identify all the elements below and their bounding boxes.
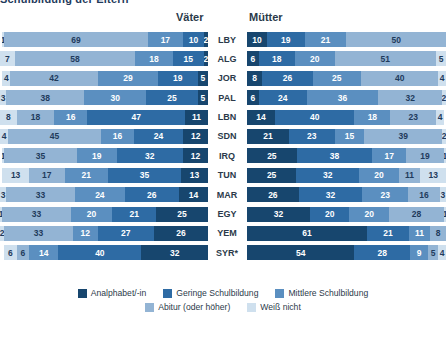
legend-swatch-icon [247, 303, 256, 312]
bar-mothers-sdn: 212315392 [247, 129, 446, 144]
bar-fathers-irq: 135193212 [0, 148, 208, 163]
chart-row: 135193212IRQ253817191 [0, 147, 446, 166]
legend-item: Geringe Schulbildung [163, 288, 258, 298]
legend-swatch-icon [275, 289, 284, 298]
bar-segment: 33 [6, 187, 75, 202]
bar-segment: 27 [98, 226, 154, 241]
bar-segment: 15 [173, 51, 204, 66]
chart-legend: Analphabet/-inGeringe SchulbildungMittle… [0, 288, 446, 316]
bar-segment: 69 [4, 32, 148, 47]
chart-row: 44229195JOR82625404 [0, 70, 446, 89]
country-label: SDN [208, 129, 246, 144]
bar-segment: 7 [0, 51, 15, 66]
bar-fathers-yem: 233122726 [0, 226, 208, 241]
country-label: ALG [208, 51, 246, 66]
country-label: MAR [208, 187, 246, 202]
bar-segment: 10 [247, 32, 267, 47]
legend-item: Abitur (oder höher) [145, 302, 230, 312]
bar-segment: 5 [436, 51, 446, 66]
bar-mothers-yem: 6121118 [247, 226, 446, 241]
bar-segment: 25 [247, 148, 297, 163]
bar-segment: 20 [71, 207, 113, 222]
bar-segment: 21 [112, 207, 156, 222]
bar-segment: 26 [154, 226, 208, 241]
bar-segment: 21 [247, 129, 289, 144]
bar-segment: 11 [399, 168, 421, 183]
bar-mothers-syr: 5428954 [247, 245, 446, 260]
bar-fathers-lbn: 818164711 [0, 110, 208, 125]
chart-row: 1317213513TUN2532201113 [0, 167, 446, 186]
bar-segment: 40 [275, 110, 355, 125]
country-label: EGY [208, 207, 246, 222]
bar-segment: 32 [117, 148, 184, 163]
bar-segment: 16 [54, 110, 87, 125]
bar-segment: 23 [390, 110, 436, 125]
chart-row: 445162412SDN212315392 [0, 128, 446, 147]
bar-segment: 16 [408, 187, 440, 202]
bar-segment: 14 [179, 187, 208, 202]
bar-segment: 4 [2, 71, 10, 86]
chart-rows: 16917102LBY1019215075818152ALG6182051544… [0, 31, 446, 264]
bar-segment: 20 [310, 207, 349, 222]
bar-mothers-alg: 61820515 [247, 51, 446, 66]
bar-segment: 6 [17, 245, 29, 260]
bar-mothers-lby: 10192150 [247, 32, 446, 47]
bar-segment: 25 [247, 168, 296, 183]
bar-segment: 5 [198, 71, 208, 86]
bar-segment: 2 [442, 129, 446, 144]
bar-fathers-tun: 1317213513 [0, 168, 208, 183]
chart-row: 133202125EGY322020281 [0, 206, 446, 225]
country-label: TUN [208, 168, 246, 183]
legend-row: Abitur (oder höher)Weiß nicht [0, 302, 446, 312]
bar-segment: 19 [77, 148, 117, 163]
bar-segment: 5 [198, 90, 208, 105]
bar-segment: 14 [247, 110, 275, 125]
bar-segment: 4 [438, 245, 446, 260]
chart-row: 75818152ALG61820515 [0, 50, 446, 69]
bar-segment: 33 [2, 207, 71, 222]
bar-mothers-tun: 2532201113 [247, 168, 446, 183]
bar-fathers-lby: 16917102 [0, 32, 208, 47]
bar-segment: 30 [84, 90, 146, 105]
bar-segment: 8 [0, 110, 17, 125]
bar-segment: 20 [349, 207, 388, 222]
country-label: LBY [208, 32, 246, 47]
country-label: LBN [208, 110, 246, 125]
bar-segment: 19 [406, 148, 444, 163]
legend-label: Mittlere Schulbildung [288, 288, 368, 298]
chart-row: 818164711LBN144018234 [0, 109, 446, 128]
bar-segment: 40 [361, 71, 438, 86]
bar-segment: 51 [335, 51, 436, 66]
bar-mothers-egy: 322020281 [247, 207, 446, 222]
bar-segment: 25 [313, 71, 361, 86]
bar-fathers-syr: 66144032 [0, 245, 208, 260]
bar-fathers-pal: 33830255 [0, 90, 208, 105]
country-label: SYR* [208, 245, 246, 260]
bar-segment: 13 [420, 168, 446, 183]
bar-segment: 23 [362, 187, 408, 202]
bar-segment: 28 [389, 207, 444, 222]
bar-segment: 19 [158, 71, 198, 86]
bar-segment: 16 [101, 129, 134, 144]
bar-segment: 19 [267, 32, 305, 47]
bar-segment: 8 [430, 226, 446, 241]
legend-row: Analphabet/-inGeringe SchulbildungMittle… [0, 288, 446, 298]
bar-segment: 20 [359, 168, 398, 183]
legend-item: Weiß nicht [247, 302, 300, 312]
bar-segment: 42 [10, 71, 97, 86]
country-label: IRQ [208, 148, 246, 163]
bar-segment: 32 [378, 90, 442, 105]
bar-segment: 6 [4, 245, 16, 260]
bar-segment: 9 [410, 245, 428, 260]
chart-row: 66144032SYR*5428954 [0, 244, 446, 263]
bar-segment: 21 [367, 226, 408, 241]
bar-segment: 21 [305, 32, 347, 47]
country-label: PAL [208, 90, 246, 105]
page-title: Schulbildung der Eltern [0, 0, 129, 5]
bar-segment: 11 [185, 110, 208, 125]
bar-segment: 47 [87, 110, 185, 125]
bar-segment: 28 [354, 245, 410, 260]
bar-fathers-mar: 333242614 [0, 187, 208, 202]
column-header-mothers: Mütter [249, 11, 283, 23]
bar-segment: 17 [372, 148, 406, 163]
